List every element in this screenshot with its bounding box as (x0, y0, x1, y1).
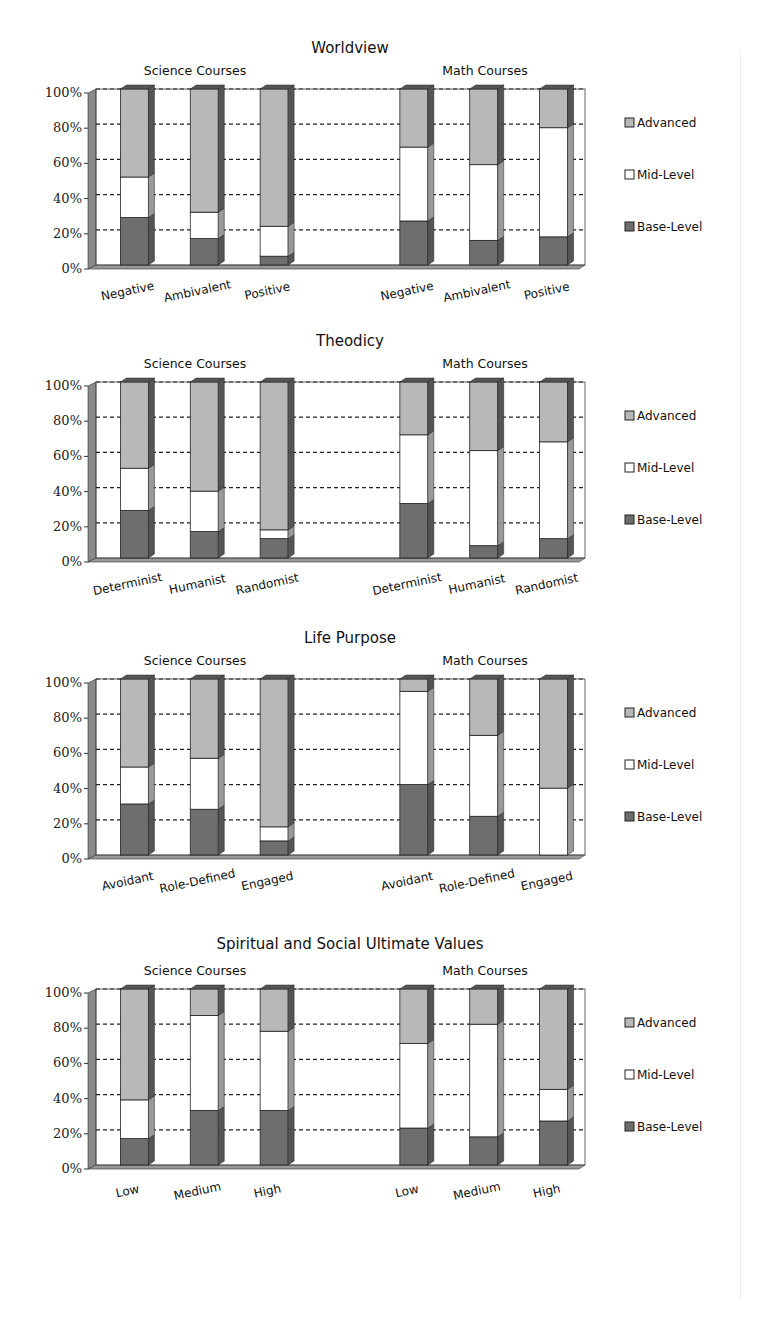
bar-segment-advanced (260, 89, 288, 226)
legend-label: Mid-Level (637, 758, 694, 772)
bar-segment-advanced (540, 679, 568, 788)
chart-theodicy: TheodicyScience CoursesMath Courses0%20%… (40, 328, 740, 602)
legend-swatch (625, 118, 634, 127)
x-category-label: Avoidant (380, 869, 435, 894)
bar-segment-mid-level (400, 691, 428, 784)
bar-segment-advanced (190, 989, 218, 1015)
bar-segment-base-level (120, 510, 148, 558)
bar-segment-mid-level (120, 468, 148, 510)
x-category-label: Engaged (519, 869, 574, 894)
bar-segment-mid-level (190, 491, 218, 531)
y-tick-label: 40% (53, 484, 82, 499)
bar-segment-advanced (120, 89, 148, 177)
y-tick-label: 40% (53, 781, 82, 796)
y-tick-label: 60% (53, 155, 82, 170)
bar-segment-mid-level (120, 767, 148, 804)
bar-segment-advanced (190, 89, 218, 212)
x-category-label: Humanist (447, 571, 507, 597)
legend-swatch (625, 170, 634, 179)
bar-segment-mid-level (470, 1024, 498, 1137)
bar-segment-mid-level (260, 827, 288, 841)
bar-segment-mid-level (470, 735, 498, 816)
legend-label: Base-Level (637, 1120, 702, 1134)
y-tick-label: 100% (45, 378, 82, 393)
bar-segment-base-level (190, 809, 218, 855)
bar-segment-advanced (120, 382, 148, 468)
bar-segment-mid-level (540, 442, 568, 539)
x-category-label: High (532, 1181, 562, 1200)
x-category-label: Medium (173, 1179, 223, 1203)
y-tick-label: 40% (53, 1091, 82, 1106)
x-category-label: Role-Defined (158, 866, 236, 895)
bar-segment-mid-level (190, 212, 218, 238)
bar-segment-mid-level (400, 1044, 428, 1128)
bar-segment-advanced (400, 989, 428, 1044)
bar-segment-advanced (470, 89, 498, 165)
bar-segment-base-level (120, 1139, 148, 1165)
y-tick-label: 0% (61, 261, 82, 276)
bar-segment-base-level (400, 503, 428, 558)
legend-swatch (625, 812, 634, 821)
x-category-label: Negative (379, 279, 435, 304)
bar-segment-base-level (400, 785, 428, 855)
legend-label: Mid-Level (637, 461, 694, 475)
bar-segment-mid-level (470, 451, 498, 546)
x-category-label: Negative (100, 279, 156, 304)
y-tick-label: 20% (53, 1126, 82, 1141)
y-tick-label: 0% (61, 554, 82, 569)
legend-swatch (625, 1122, 634, 1131)
legend-label: Advanced (637, 706, 696, 720)
y-tick-label: 20% (53, 226, 82, 241)
bar-segment-base-level (540, 237, 568, 265)
bar-segment-base-level (470, 816, 498, 855)
bar-segment-advanced (400, 89, 428, 147)
bar-segment-mid-level (190, 1015, 218, 1110)
bar-segment-advanced (400, 382, 428, 435)
bar-segment-base-level (540, 1121, 568, 1165)
x-category-label: Role-Defined (438, 866, 516, 895)
y-tick-label: 20% (53, 816, 82, 831)
legend-swatch (625, 463, 634, 472)
legend-swatch (625, 411, 634, 420)
bar-segment-advanced (540, 989, 568, 1089)
x-category-label: Positive (243, 279, 291, 302)
chart-life-purpose: Life PurposeScience CoursesMath Courses0… (40, 625, 740, 899)
legend-label: Base-Level (637, 220, 702, 234)
group-label: Science Courses (144, 63, 247, 78)
legend-label: Mid-Level (637, 1068, 694, 1082)
legend-label: Advanced (637, 409, 696, 423)
y-tick-label: 60% (53, 1055, 82, 1070)
bar-segment-mid-level (190, 758, 218, 809)
chart-title: Theodicy (315, 332, 384, 350)
bar-segment-mid-level (400, 147, 428, 221)
x-category-label: Positive (523, 279, 571, 302)
chart-title: Life Purpose (304, 629, 396, 647)
legend-swatch (625, 1018, 634, 1027)
y-tick-label: 100% (45, 985, 82, 1000)
bar-segment-advanced (190, 382, 218, 491)
legend-label: Mid-Level (637, 168, 694, 182)
legend-swatch (625, 222, 634, 231)
legend-swatch (625, 760, 634, 769)
x-category-label: Medium (452, 1179, 502, 1203)
chart-worldview: WorldviewScience CoursesMath Courses0%20… (40, 35, 740, 309)
group-label: Science Courses (144, 963, 247, 978)
bar-segment-advanced (260, 382, 288, 530)
legend-swatch (625, 708, 634, 717)
group-label: Math Courses (442, 356, 527, 371)
x-category-label: Randomist (514, 571, 580, 598)
chart-spiritual-and-social-ultimate-values: Spiritual and Social Ultimate ValuesScie… (40, 935, 740, 1209)
bar-segment-advanced (470, 679, 498, 735)
y-tick-label: 80% (53, 120, 82, 135)
bar-segment-advanced (260, 679, 288, 827)
y-tick-label: 80% (53, 1020, 82, 1035)
bar-segment-advanced (120, 679, 148, 767)
legend-label: Base-Level (637, 513, 702, 527)
x-category-label: Avoidant (100, 869, 155, 894)
x-category-label: Ambivalent (442, 277, 512, 305)
y-tick-label: 0% (61, 851, 82, 866)
x-category-label: Low (115, 1182, 141, 1201)
bar-segment-base-level (260, 841, 288, 855)
bar-segment-base-level (120, 217, 148, 265)
group-label: Math Courses (442, 653, 527, 668)
